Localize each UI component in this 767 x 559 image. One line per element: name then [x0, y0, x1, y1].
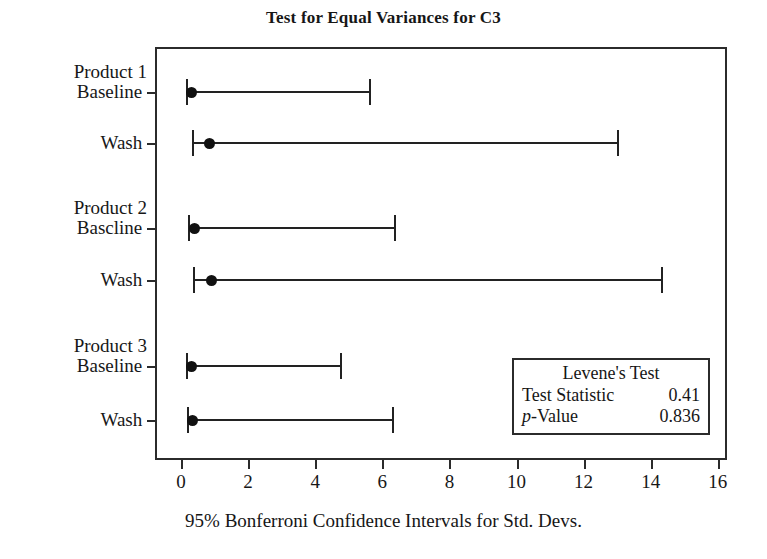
interval-point-estimate	[189, 223, 200, 234]
test-statistic-label: Test Statistic	[522, 385, 614, 407]
interval-point-estimate	[186, 361, 197, 372]
category-axis: Product 1Baseline Wash Product 2Bascline…	[0, 47, 147, 460]
x-axis-tick-label: 12	[562, 471, 606, 493]
x-axis-tick-label: 0	[159, 471, 203, 493]
interval-lower-cap	[193, 267, 195, 293]
interval-line	[188, 227, 394, 229]
value-axis: 0246810121416	[155, 460, 727, 500]
x-axis-tick	[181, 460, 183, 469]
interval-line	[192, 142, 617, 144]
level-label: Wash	[101, 270, 148, 290]
page-title: Test for Equal Variances for C3	[0, 8, 767, 28]
factor-label: Product 2	[74, 198, 147, 218]
category-tick	[147, 280, 157, 282]
x-axis-tick	[449, 460, 451, 469]
p-value-label: p-Value	[522, 406, 578, 428]
category-tick	[147, 92, 157, 94]
chart-page: Test for Equal Variances for C3 Product …	[0, 0, 767, 559]
interval-point-estimate	[187, 415, 198, 426]
level-label: Wash	[101, 133, 148, 153]
p-value-label-rest: -Value	[531, 406, 578, 426]
test-name-label: Levene's Test	[522, 363, 700, 385]
interval-upper-cap	[617, 130, 619, 156]
category-label-6: Wash	[101, 410, 148, 430]
interval-lower-cap	[192, 130, 194, 156]
test-statistic-value: 0.41	[669, 385, 701, 407]
category-tick	[147, 228, 157, 230]
level-label: Baseline	[74, 356, 147, 376]
p-value-value: 0.836	[660, 406, 701, 428]
category-tick	[147, 420, 157, 422]
x-axis-tick	[584, 460, 586, 469]
interval-upper-cap	[392, 407, 394, 433]
x-axis-tick	[248, 460, 250, 469]
x-axis-title: 95% Bonferroni Confidence Intervals for …	[0, 510, 767, 532]
interval-point-estimate	[206, 275, 217, 286]
category-label-5: Product 3Baseline	[74, 336, 147, 376]
x-axis-tick	[517, 460, 519, 469]
levene-test-box: Levene's Test Test Statistic 0.41 p-Valu…	[512, 358, 710, 435]
category-label-2: Wash	[101, 133, 148, 153]
x-axis-tick-label: 14	[629, 471, 673, 493]
x-axis-tick-label: 2	[226, 471, 270, 493]
category-label-1: Product 1Baseline	[74, 62, 147, 102]
x-axis-tick-label: 8	[427, 471, 471, 493]
interval-upper-cap	[369, 79, 371, 105]
factor-label: Product 1	[74, 62, 147, 82]
p-italic: p	[522, 406, 531, 426]
category-label-4: Wash	[101, 270, 148, 290]
interval-line	[186, 91, 369, 93]
category-tick	[147, 143, 157, 145]
category-tick	[147, 366, 157, 368]
level-label: Wash	[101, 410, 148, 430]
factor-label: Product 3	[74, 336, 147, 356]
interval-upper-cap	[340, 353, 342, 379]
level-label: Bascline	[74, 218, 147, 238]
category-label-3: Product 2Bascline	[74, 198, 147, 238]
x-axis-tick	[315, 460, 317, 469]
test-statistic-row: Test Statistic 0.41	[522, 385, 700, 407]
interval-upper-cap	[394, 215, 396, 241]
x-axis-tick-label: 16	[696, 471, 740, 493]
interval-point-estimate	[186, 87, 197, 98]
x-axis-tick-label: 6	[360, 471, 404, 493]
interval-line	[186, 365, 340, 367]
x-axis-tick-label: 10	[495, 471, 539, 493]
interval-line	[193, 279, 661, 281]
interval-point-estimate	[204, 138, 215, 149]
x-axis-tick	[651, 460, 653, 469]
interval-line	[187, 419, 392, 421]
interval-upper-cap	[661, 267, 663, 293]
x-axis-tick	[718, 460, 720, 469]
p-value-row: p-Value 0.836	[522, 406, 700, 428]
x-axis-tick	[382, 460, 384, 469]
x-axis-tick-label: 4	[293, 471, 337, 493]
level-label: Baseline	[74, 82, 147, 102]
